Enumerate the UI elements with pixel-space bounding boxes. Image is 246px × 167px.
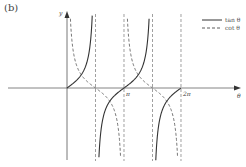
tick-labels: π2π — [125, 90, 192, 97]
y-axis-label: y — [58, 9, 63, 17]
x-tick-label: π — [125, 90, 131, 97]
legend-label-0: tan θ — [225, 16, 241, 23]
y-axis-arrow — [65, 11, 70, 18]
asymptotes — [96, 14, 181, 161]
x-axis-label: θ — [237, 92, 241, 99]
legend-label-1: cot θ — [225, 24, 240, 31]
axes: yθ — [8, 9, 241, 160]
x-axis-arrow — [234, 86, 241, 91]
trig-chart: yθ π2π tan θcot θ — [0, 0, 246, 167]
legend: tan θcot θ — [202, 16, 241, 31]
x-tick-label: 2π — [182, 90, 192, 97]
